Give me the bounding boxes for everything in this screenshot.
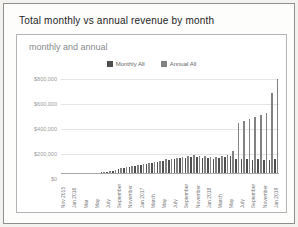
x-tick-label: Nov 2015 [61, 176, 67, 208]
bar-monthly [190, 157, 192, 174]
bar-monthly [207, 158, 209, 174]
page-title: Total monthly vs annual revenue by month [19, 15, 214, 26]
bar-monthly [179, 158, 181, 174]
bar-monthly [168, 160, 170, 174]
chart-subtitle: monthly and annual [29, 42, 108, 52]
y-tick-label: $0 [51, 176, 57, 182]
y-tick-label: $800,000 [34, 76, 57, 82]
report-frame: Total monthly vs annual revenue by month… [3, 3, 295, 224]
plot-wrap: $800,000$600,000$400,000$200,000$0 Nov 2… [25, 79, 279, 208]
x-tick-label: Jan 2018 [206, 176, 212, 208]
x-tick-label: November [262, 176, 268, 208]
bar-monthly [202, 158, 204, 174]
x-tick-label: September [184, 176, 190, 208]
legend-item-monthly: Monthly All [107, 61, 145, 67]
bar-monthly [213, 159, 215, 174]
bar-monthly [263, 160, 265, 174]
x-tick-label: May [229, 176, 235, 208]
bar-monthly [257, 159, 259, 174]
bar-monthly [196, 157, 198, 174]
x-tick-label: November [195, 176, 201, 208]
annual-swatch-icon [161, 61, 167, 67]
bar-monthly [224, 157, 226, 174]
bar-monthly [185, 158, 187, 174]
x-tick-label: September [117, 176, 123, 208]
chart-panel: monthly and annual Monthly All Annual Al… [16, 34, 287, 213]
bar-monthly [218, 158, 220, 174]
bar-monthly [246, 159, 248, 174]
x-tick-label: May [95, 176, 101, 208]
x-tick-label: Jan 2017 [139, 176, 145, 208]
bar-monthly [235, 159, 237, 174]
plot-area [61, 79, 279, 174]
x-axis-baseline [61, 173, 279, 174]
bar-monthly [269, 160, 271, 174]
y-axis: $800,000$600,000$400,000$200,000$0 [25, 79, 61, 179]
x-tick-label: July [240, 176, 246, 208]
legend-item-annual: Annual All [161, 61, 197, 67]
x-tick-label: November [128, 176, 134, 208]
legend-label-annual: Annual All [170, 61, 197, 67]
monthly-swatch-icon [107, 61, 113, 67]
bar-monthly [230, 156, 232, 174]
bar-monthly [241, 159, 243, 173]
x-tick-label: May [162, 176, 168, 208]
bar-group [274, 79, 280, 174]
x-tick-label: March [218, 176, 224, 208]
x-tick-label: July [173, 176, 179, 208]
legend-label-monthly: Monthly All [116, 61, 145, 67]
y-tick-label: $600,000 [34, 101, 57, 107]
x-tick-label: July [106, 176, 112, 208]
bar-annual [277, 79, 279, 173]
x-axis: Nov 2015Jan 2016MarMayJulySeptemberNovem… [61, 176, 279, 208]
bar-monthly [174, 159, 176, 174]
chart-legend: Monthly All Annual All [17, 61, 286, 67]
y-tick-label: $200,000 [34, 151, 57, 157]
bar-monthly [274, 159, 276, 174]
bar-monthly [162, 161, 164, 174]
plot-column: Nov 2015Jan 2016MarMayJulySeptemberNovem… [61, 79, 279, 208]
x-tick-label: March [151, 176, 157, 208]
x-tick-label: Mar [83, 176, 89, 208]
x-tick-label: Jan 2016 [72, 176, 78, 208]
bar-monthly [252, 160, 254, 174]
y-tick-label: $400,000 [34, 126, 57, 132]
x-tick-label: Jan 2019 [274, 176, 280, 208]
bars-container [61, 79, 279, 174]
x-tick-label: September [251, 176, 257, 208]
